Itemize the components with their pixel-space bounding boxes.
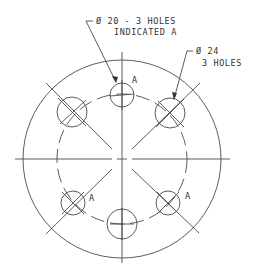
diagonal-centerline-ll	[46, 169, 112, 234]
arrowhead-icon	[112, 76, 118, 83]
label-small-holes-line1: Ø 20 - 3 HOLES	[96, 16, 176, 26]
diagonal-centerline-ul	[46, 83, 112, 149]
label-large-holes-line2: 3 HOLES	[202, 58, 242, 68]
leader-small-holes	[86, 21, 116, 82]
label-small-holes-line2: INDICATED A	[114, 27, 177, 37]
hole-mark-lower-right: A	[185, 191, 191, 201]
diagonal-centerline-ur	[132, 83, 200, 149]
leader-large-holes	[174, 51, 193, 99]
hole-mark-lower-left: A	[89, 193, 95, 203]
hole-mark-top: A	[132, 75, 138, 85]
flange-drawing: Ø 20 - 3 HOLES INDICATED A Ø 24 3 HOLES …	[0, 0, 258, 276]
arrowhead-icon	[172, 92, 177, 100]
label-large-holes-line1: Ø 24	[196, 46, 219, 56]
hole-centerline	[158, 101, 184, 127]
